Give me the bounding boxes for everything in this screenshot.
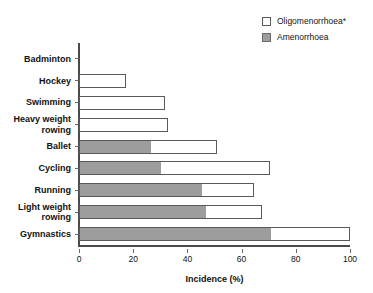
bar-segment-oligomenorrhoea [151, 140, 217, 154]
y-axis-label: Running [0, 179, 75, 201]
bar-segment-amenorrhoea [79, 205, 206, 219]
x-axis-ticks: 020406080100 [79, 249, 350, 254]
x-axis-tick [296, 249, 297, 253]
bar-segment-oligomenorrhoea [79, 96, 165, 110]
plot-area [79, 48, 350, 245]
legend-swatch-amenorrhoea-icon [262, 33, 271, 42]
y-axis-tick [75, 102, 79, 103]
x-axis-tick [79, 249, 80, 253]
chart-legend: Oligomenorrhoea* Amenorrhoea [262, 17, 346, 42]
bar-segment-amenorrhoea [79, 183, 202, 197]
bar-segment-amenorrhoea [79, 227, 271, 241]
bar-row [79, 201, 350, 223]
x-axis-tick-label: 60 [237, 254, 246, 264]
x-axis-tick-label: 0 [77, 254, 82, 264]
bar-stack [79, 161, 270, 175]
y-axis-tick [75, 124, 79, 125]
bar-stack [79, 74, 126, 88]
bar-row [79, 114, 350, 136]
bar-stack [79, 140, 217, 154]
bar-stack [79, 205, 262, 219]
bar-segment-amenorrhoea [79, 161, 161, 175]
bar-row [79, 223, 350, 245]
y-axis-tick [75, 234, 79, 235]
bar-segment-oligomenorrhoea [161, 161, 270, 175]
bar-segment-oligomenorrhoea [206, 205, 262, 219]
bar-stack [79, 183, 254, 197]
y-axis-label: Ballet [0, 136, 75, 158]
y-axis-tick [75, 212, 79, 213]
bar-stack [79, 96, 165, 110]
x-axis-title: Incidence (%) [79, 274, 350, 284]
y-axis-tick [75, 80, 79, 81]
y-axis-label: Gymnastics [0, 223, 75, 245]
bar-row [79, 179, 350, 201]
bar-row [79, 48, 350, 70]
bar-segment-oligomenorrhoea [202, 183, 254, 197]
bar-row [79, 157, 350, 179]
x-axis-tick [350, 249, 351, 253]
x-axis-tick-label: 40 [183, 254, 192, 264]
chart-container: Oligomenorrhoea* Amenorrhoea Badminton H… [0, 0, 373, 293]
bar-rows [79, 48, 350, 245]
x-axis-tick [133, 249, 134, 253]
x-axis-tick-label: 100 [343, 254, 357, 264]
x-axis-tick-label: 20 [128, 254, 137, 264]
bar-segment-oligomenorrhoea [79, 118, 168, 132]
y-axis-label: Badminton [0, 48, 75, 70]
legend-label-amenorrhoea: Amenorrhoea [277, 33, 329, 42]
x-axis-tick [187, 249, 188, 253]
legend-label-oligomenorrhoea: Oligomenorrhoea* [277, 17, 346, 26]
legend-entry-amenorrhoea: Amenorrhoea [262, 33, 346, 42]
legend-swatch-oligomenorrhoea-icon [262, 17, 271, 26]
y-axis-tick [75, 146, 79, 147]
y-axis-tick [75, 168, 79, 169]
y-axis-label: Swimming [0, 92, 75, 114]
bar-row [79, 136, 350, 158]
bar-row [79, 92, 350, 114]
y-axis-label: Heavy weight rowing [0, 114, 75, 136]
bar-stack [79, 227, 350, 241]
legend-entry-oligomenorrhoea: Oligomenorrhoea* [262, 17, 346, 26]
bar-stack [79, 118, 168, 132]
bar-row [79, 70, 350, 92]
bar-segment-oligomenorrhoea [79, 74, 126, 88]
y-axis-label: Cycling [0, 157, 75, 179]
x-axis-tick [242, 249, 243, 253]
y-axis-tick [75, 190, 79, 191]
bar-segment-oligomenorrhoea [271, 227, 350, 241]
y-axis-label: Hockey [0, 70, 75, 92]
bar-segment-amenorrhoea [79, 140, 151, 154]
y-axis-labels: Badminton Hockey Swimming Heavy weight r… [0, 48, 75, 245]
y-axis-tick [75, 58, 79, 59]
x-axis-line [78, 245, 350, 247]
x-axis-tick-label: 80 [291, 254, 300, 264]
y-axis-label: Light weight rowing [0, 201, 75, 223]
